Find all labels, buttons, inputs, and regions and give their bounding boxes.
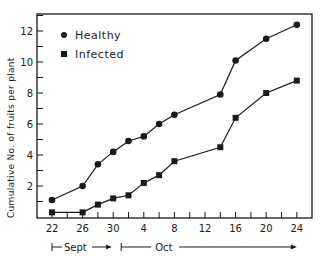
arrow-right-icon (291, 245, 297, 250)
series-line-infected (52, 81, 297, 213)
data-point-circle-icon (156, 121, 163, 128)
data-point-square-icon (171, 158, 177, 164)
legend-circle-icon (61, 32, 67, 38)
data-point-square-icon (263, 90, 269, 96)
data-point-square-icon (110, 195, 116, 201)
data-point-square-icon (233, 115, 239, 121)
y-tick-label: 12 (20, 26, 33, 37)
data-point-square-icon (95, 202, 101, 208)
arrow-right-icon (106, 245, 111, 250)
x-tick-label: 16 (229, 223, 242, 234)
x-tick-label: 26 (76, 223, 89, 234)
x-tick-label: 20 (260, 223, 273, 234)
x-tick-label: 12 (199, 223, 212, 234)
data-point-circle-icon (141, 133, 148, 140)
data-point-circle-icon (294, 22, 301, 29)
data-point-circle-icon (49, 197, 56, 204)
data-point-square-icon (294, 78, 300, 84)
x-tick-label: 4 (141, 223, 147, 234)
y-axis: 24681012 (20, 16, 43, 202)
x-tick-label: 30 (107, 223, 120, 234)
data-point-square-icon (49, 209, 55, 215)
y-tick-label: 4 (27, 150, 33, 161)
y-tick-label: 10 (20, 57, 33, 68)
legend-infected-label: Infected (75, 48, 124, 61)
sept-label: Sept (64, 242, 87, 253)
data-point-circle-icon (171, 111, 178, 118)
line-chart: 24681012 2226304812162024 Healthy Infect… (0, 0, 327, 257)
legend: Healthy Infected (61, 29, 124, 61)
legend-square-icon (61, 51, 67, 57)
data-point-square-icon (141, 180, 147, 186)
data-point-circle-icon (125, 138, 132, 145)
x-tick-label: 22 (46, 223, 59, 234)
y-tick-label: 2 (27, 181, 33, 192)
data-point-square-icon (217, 144, 223, 150)
data-point-circle-icon (95, 161, 102, 168)
oct-label: Oct (155, 242, 172, 253)
x-tick-label: 24 (290, 223, 303, 234)
data-point-circle-icon (79, 183, 86, 190)
period-annotations: SeptOct (52, 242, 297, 253)
x-tick-label: 8 (171, 223, 177, 234)
y-axis-label: Cumulative No. of fruits per plant (6, 57, 16, 218)
y-tick-label: 6 (27, 119, 33, 130)
data-point-square-icon (80, 209, 86, 215)
legend-healthy-label: Healthy (75, 29, 121, 42)
data-point-circle-icon (263, 35, 270, 42)
data-point-circle-icon (217, 91, 224, 98)
data-point-circle-icon (110, 149, 117, 156)
data-point-circle-icon (232, 57, 239, 64)
data-point-square-icon (156, 172, 162, 178)
y-tick-label: 8 (27, 88, 33, 99)
data-point-square-icon (126, 192, 132, 198)
